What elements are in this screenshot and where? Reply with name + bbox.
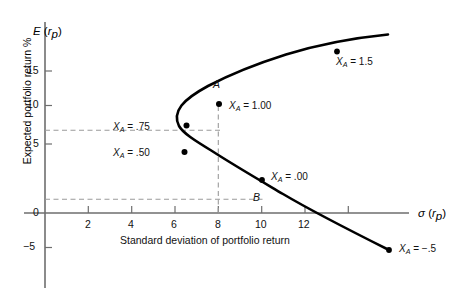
y-tick-label-5: 5 <box>33 138 39 149</box>
xa-subscript: A <box>120 125 125 134</box>
y-axis-caption: Expected portfolio return % <box>21 38 33 165</box>
x-tick-label-2: 2 <box>85 219 91 230</box>
label-xa-0-75: XA = .75 <box>113 122 150 133</box>
xa-value-1-5: = 1.5 <box>350 56 373 67</box>
point-letter-B: B <box>253 192 260 203</box>
label-xa-0-50: XA = .50 <box>113 148 150 159</box>
x-tick-label-6: 6 <box>171 219 177 230</box>
xa-subscript: A <box>343 60 348 69</box>
x-axis-symbol-paren-close: ) <box>442 207 446 219</box>
y-axis-caption-wrapper: Expected portfolio return % <box>21 26 33 176</box>
xa-subscript: A <box>120 151 125 160</box>
xa-var: X <box>229 100 236 111</box>
xa-subscript: A <box>406 247 411 256</box>
x-axis-symbol: σ (rp) <box>418 204 446 223</box>
x-tick-label-12: 12 <box>298 219 310 230</box>
label-xa-0-00: XA = .00 <box>271 172 308 183</box>
marker-xa-one-five <box>334 49 340 55</box>
x-tick-label-8: 8 <box>215 219 221 230</box>
x-axis-caption: Standard deviation of portfolio return <box>120 235 290 246</box>
xa-subscript: A <box>236 104 241 113</box>
xa-var: X <box>336 56 343 67</box>
xa-subscript: A <box>278 175 283 184</box>
xa-var: X <box>271 171 278 182</box>
chart-canvas <box>0 0 457 294</box>
marker-xa-one <box>216 101 222 107</box>
y-tick-label-minus5: −5 <box>23 241 35 252</box>
guide-lines <box>45 105 263 214</box>
label-xa-1-5: XA = 1.5 <box>336 57 373 68</box>
xa-value-1-00: = 1.00 <box>243 100 271 111</box>
xa-value-neg-0-5: = −.5 <box>413 243 436 254</box>
y-axis-symbol-paren-open: ( <box>41 25 48 37</box>
label-xa-neg-0-5: XA = −.5 <box>399 244 436 255</box>
xa-var: X <box>113 121 120 132</box>
y-axis-ticks <box>45 71 52 248</box>
marker-xa-zero <box>259 177 265 183</box>
xa-value-0-00: = .00 <box>285 171 308 182</box>
point-letter-A: A <box>213 79 220 90</box>
x-axis-symbol-paren-open: ( <box>425 207 432 219</box>
label-xa-1-00: XA = 1.00 <box>229 101 271 112</box>
xa-value-0-50: = .50 <box>127 147 150 158</box>
xa-value-0-75: = .75 <box>127 121 150 132</box>
y-axis-symbol: E (rp) <box>33 22 62 41</box>
y-tick-label-0: 0 <box>33 207 39 218</box>
portfolio-opportunity-set-chart: E (rp) σ (rp) 15 10 5 0 −5 2 4 6 8 10 12… <box>0 0 457 294</box>
xa-var: X <box>399 243 406 254</box>
marker-xa-neg-half <box>386 247 392 253</box>
x-tick-label-4: 4 <box>128 219 134 230</box>
marker-xa-three-q <box>184 123 190 129</box>
y-axis-symbol-paren-close: ) <box>58 25 62 37</box>
x-tick-label-10: 10 <box>255 219 267 230</box>
marker-xa-half <box>182 149 188 155</box>
xa-var: X <box>113 147 120 158</box>
